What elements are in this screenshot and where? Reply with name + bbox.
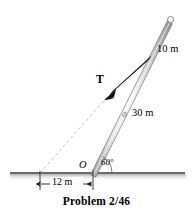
pole [91, 17, 174, 178]
label-lower-segment: 30 m [132, 108, 153, 119]
ground-shadow [10, 174, 186, 181]
figure-canvas [0, 0, 193, 212]
pole-top-eyelet [168, 17, 174, 23]
label-tension-force: T [96, 74, 104, 86]
label-upper-segment: 10 m [157, 44, 178, 55]
problem-figure: 10 m 30 m T O 60° 12 m Problem 2/46 [0, 0, 193, 212]
label-ground-distance: 12 m [52, 177, 72, 187]
figure-caption: Problem 2/46 [0, 195, 193, 207]
label-angle: 60° [101, 158, 114, 167]
label-origin-point: O [79, 160, 87, 171]
